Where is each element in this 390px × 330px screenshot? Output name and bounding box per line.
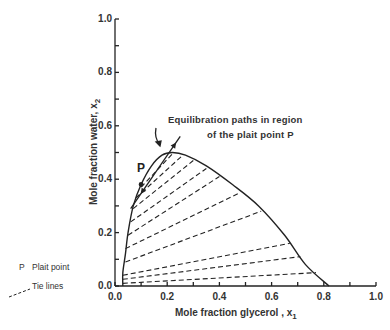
y-tick-label: 1.0 <box>98 13 112 24</box>
x-tick-label: 0.2 <box>160 291 174 302</box>
binodal-curve <box>123 153 329 287</box>
legend-plait-symbol: P <box>19 262 25 272</box>
x-tick-label: 0.0 <box>108 291 122 302</box>
tie-line <box>123 273 316 284</box>
tie-line <box>123 243 290 275</box>
tie-lines <box>123 154 316 283</box>
x-tick-label: 0.8 <box>317 291 331 302</box>
tie-line <box>131 169 207 222</box>
tie-line <box>125 211 261 262</box>
y-tick-label: 0.0 <box>98 280 112 291</box>
x-tick-label: 0.6 <box>265 291 279 302</box>
y-tick-label: 0.4 <box>98 173 112 184</box>
legend: P Plait point Tie lines <box>9 262 70 297</box>
plait-point-marker <box>139 183 143 187</box>
legend-tie-line-icon <box>9 289 30 297</box>
phase-diagram: 0.00.20.40.60.81.00.00.20.40.60.81.0 Equ… <box>0 0 390 330</box>
x-axis-label: Mole fraction glycerol , x1 <box>175 307 297 321</box>
y-tick-label: 0.6 <box>98 120 112 131</box>
annotations: Equilibration paths in regionof the plai… <box>137 114 303 175</box>
x-tick-label: 0.4 <box>212 291 226 302</box>
tie-line <box>123 257 300 280</box>
pointer-arrow-head-icon <box>156 141 161 146</box>
annotation-line-2: of the plait point P <box>207 129 294 140</box>
axes <box>115 19 376 286</box>
tick-labels: 0.00.20.40.60.81.00.00.20.40.60.81.0 <box>98 13 383 302</box>
x-tick-label: 1.0 <box>369 291 383 302</box>
legend-tie-label: Tie lines <box>32 281 63 291</box>
y-tick-label: 0.8 <box>98 66 112 77</box>
annotation-line-1: Equilibration paths in region <box>168 114 303 125</box>
plait-point-label: P <box>137 161 145 175</box>
y-axis-label: Mole fraction water, x2 <box>88 98 102 205</box>
legend-plait-label: Plait point <box>32 262 70 272</box>
y-tick-label: 0.2 <box>98 227 112 238</box>
